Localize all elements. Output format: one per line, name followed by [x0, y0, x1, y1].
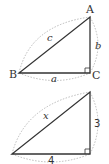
- right-angle-marker: [85, 68, 90, 73]
- vertex-b-label: B: [9, 68, 17, 81]
- vertex-c-label: C: [92, 69, 100, 82]
- side-3-label: 3: [94, 118, 100, 129]
- side-x-label: x: [43, 110, 49, 121]
- right-angle-marker: [85, 149, 90, 154]
- vertex-a-label: A: [85, 3, 95, 16]
- triangle-shape: [12, 92, 90, 154]
- side-c-label: c: [47, 32, 53, 43]
- triangle-diagrams: A B C c b a x 3 4: [0, 0, 109, 164]
- triangle-abc: A B C c b a: [9, 3, 101, 84]
- triangle-x34: x 3 4: [12, 92, 100, 164]
- side-b-label: b: [95, 40, 101, 51]
- triangle-shape: [19, 17, 90, 73]
- side-a-label: a: [51, 73, 57, 84]
- side-4-label: 4: [48, 155, 54, 164]
